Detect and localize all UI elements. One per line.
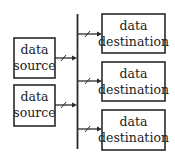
data-destination-node: data destination: [98, 110, 169, 150]
data-destination-label-line2: destination: [98, 82, 169, 97]
arrowhead-icon: [72, 56, 77, 61]
arrowhead-icon: [72, 103, 77, 108]
data-source-label-line1: data: [21, 89, 49, 104]
bus-diagram: data source data source data destination…: [0, 0, 175, 160]
data-destination-label-line1: data: [120, 66, 148, 81]
data-destination-label-line2: destination: [98, 130, 169, 145]
data-destination-label-line2: destination: [98, 34, 169, 49]
data-destination-node: data destination: [98, 62, 169, 101]
data-source-node: data source: [13, 38, 55, 78]
data-destination-node: data destination: [98, 14, 169, 53]
data-destination-label-line1: data: [120, 18, 148, 33]
data-source-label-line1: data: [21, 42, 49, 57]
data-source-node: data source: [13, 85, 55, 126]
data-source-label-line2: source: [13, 105, 55, 120]
source-to-bus-connector: [55, 102, 77, 108]
source-to-bus-connector: [55, 55, 77, 61]
data-source-label-line2: source: [13, 58, 55, 73]
data-destination-label-line1: data: [120, 114, 148, 129]
